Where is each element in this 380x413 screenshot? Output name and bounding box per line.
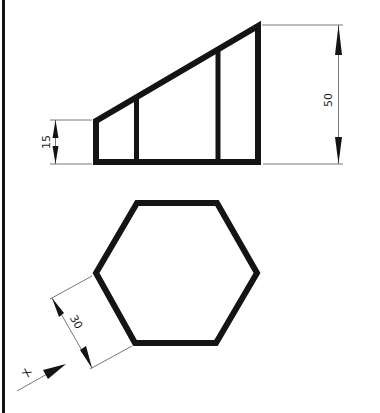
arrowhead-icon xyxy=(53,146,59,164)
dimension-30: 30 xyxy=(50,276,132,369)
dimension-label-15: 15 xyxy=(40,135,53,149)
arrowhead-icon xyxy=(335,25,342,55)
dimension-50: 50 xyxy=(262,25,343,164)
arrowhead-icon xyxy=(53,120,59,138)
dimension-15: 15 xyxy=(40,120,92,164)
plan-view xyxy=(96,203,257,343)
hexagon-outline xyxy=(96,203,257,343)
elevation-view xyxy=(96,26,258,162)
arrowhead-icon xyxy=(80,346,92,368)
view-direction-label: X xyxy=(19,366,34,379)
view-arrow-icon xyxy=(43,364,66,379)
dimension-label-50: 50 xyxy=(322,93,335,107)
arrowhead-icon xyxy=(52,298,64,317)
technical-drawing: 15 50 30 X xyxy=(0,0,380,413)
elevation-outline xyxy=(96,26,258,162)
arrowhead-icon xyxy=(335,137,342,164)
view-direction-indicator: X xyxy=(17,364,66,391)
